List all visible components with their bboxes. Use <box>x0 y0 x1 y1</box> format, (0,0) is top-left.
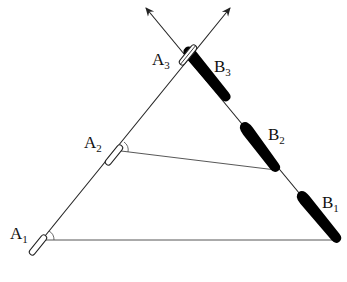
sight-line-a2-b2 <box>121 151 276 170</box>
label-a1: A1 <box>10 224 28 245</box>
boat-b1 <box>294 189 344 246</box>
boat-bearing-diagram: A1 A2 A3 B1 B2 B3 <box>0 0 347 282</box>
boat-a2 <box>104 144 124 166</box>
label-b3: B3 <box>214 57 231 78</box>
label-b2: B2 <box>268 125 285 146</box>
angle-arc-a2 <box>124 142 128 152</box>
label-a3: A3 <box>152 50 170 71</box>
angle-arc-a1 <box>49 231 54 240</box>
label-a2: A2 <box>84 133 102 154</box>
label-b1: B1 <box>322 193 339 214</box>
boat-a1 <box>28 234 48 256</box>
path-a-line <box>32 8 230 252</box>
